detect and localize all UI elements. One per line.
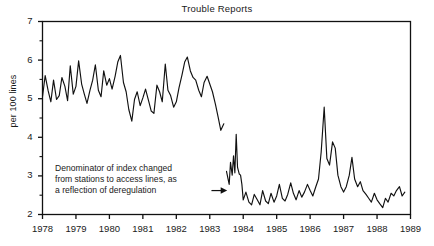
y-tick-label: 3	[15, 169, 33, 180]
denominator-change-note: Denominator of index changedfrom station…	[55, 163, 177, 197]
x-tick-label: 1985	[260, 223, 294, 234]
x-tick-label: 1986	[293, 223, 327, 234]
plot-area	[0, 0, 434, 246]
chart-container: Trouble Reports per 100 lines 234567 197…	[0, 0, 434, 246]
x-tick-label: 1979	[59, 223, 93, 234]
x-tick-label: 1987	[327, 223, 361, 234]
annotation-arrow	[211, 187, 227, 193]
y-tick-label: 7	[15, 15, 33, 26]
x-tick-label: 1984	[226, 223, 260, 234]
x-tick-label: 1981	[126, 223, 160, 234]
annotation-line: a reflection of deregulation	[55, 185, 177, 196]
annotation-line: from stations to access lines, as	[55, 174, 177, 185]
x-tick-label: 1988	[360, 223, 394, 234]
annotation-line: Denominator of index changed	[55, 163, 177, 174]
x-tick-label: 1983	[193, 223, 227, 234]
x-tick-label: 1980	[92, 223, 126, 234]
x-tick-label: 1982	[159, 223, 193, 234]
y-tick-label: 6	[15, 54, 33, 65]
x-tick-label: 1978	[26, 223, 60, 234]
y-tick-label: 5	[15, 92, 33, 103]
x-tick-label: 1989	[394, 223, 428, 234]
y-tick-label: 4	[15, 131, 33, 142]
y-tick-label: 2	[15, 208, 33, 219]
